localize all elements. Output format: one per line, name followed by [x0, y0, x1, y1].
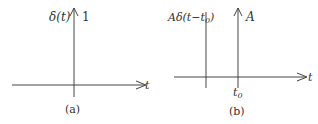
panel-a: δ(t) 1 t (a): [12, 8, 150, 116]
ylabel-a: δ(t): [49, 10, 71, 24]
xlabel-a: t: [145, 79, 150, 92]
impulse-label-a: 1: [82, 10, 90, 24]
panel-b: Aδ(t−t0) A t t0 (b): [167, 8, 313, 118]
caption-a: (a): [65, 103, 80, 116]
impulse-diagrams: δ(t) 1 t (a) Aδ(t−t0) A t t0 (b): [0, 0, 318, 124]
tick-label-t0: t0: [233, 86, 243, 100]
ylabel-b: Aδ(t−t0): [167, 11, 214, 25]
impulse-label-b: A: [245, 10, 255, 24]
xlabel-b: t: [308, 71, 313, 84]
caption-b: (b): [229, 105, 245, 118]
